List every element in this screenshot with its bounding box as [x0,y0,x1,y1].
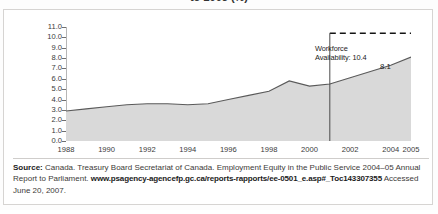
y-axis-tick-label: 6.0 [51,75,62,83]
y-axis-tick-label: 3.0 [51,106,62,114]
x-axis-tick-label: 1990 [98,145,115,154]
x-axis-tick-label: 2004 [382,145,399,154]
y-axis-tick [62,100,66,101]
y-axis-tick [62,131,66,132]
y-axis-tick [62,110,66,111]
y-axis-labels: 11.010.09.08.07.06.05.04.03.02.01.00.0 [26,27,62,141]
x-axis-tick-label: 2002 [342,145,359,154]
x-axis-tick-label: 1988 [58,145,75,154]
x-axis-tick-label: 1998 [260,145,277,154]
x-axis-tick-label: 2005 [403,145,420,154]
y-axis-tick [62,141,66,142]
figure-page: to 2005 (%) 11.010.09.08.07.06.05.04.03.… [0,0,438,214]
chart-plot-wrapper: 11.010.09.08.07.06.05.04.03.02.01.00.0 1… [4,15,434,155]
x-axis-labels: 1988199019921994199619982000200220042005 [66,145,418,159]
y-axis-tick [62,68,66,69]
y-axis-tick [62,89,66,90]
y-axis-tick-label: 10.0 [47,33,62,41]
y-axis-tick-label: 8.0 [51,54,62,62]
y-axis-tick-label: 11.0 [48,23,62,31]
y-axis-tick-label: 9.0 [51,44,62,52]
y-axis-tick [62,120,66,121]
y-axis-tick [62,37,66,38]
y-axis-tick [62,58,66,59]
source-url[interactable]: www.psagency-agencefp.gc.ca/reports-rapp… [91,174,382,183]
y-axis-tick [62,79,66,80]
figure-box: 11.010.09.08.07.06.05.04.03.02.01.00.0 1… [3,9,433,205]
source-note: Source: Canada. Treasury Board Secretari… [13,162,429,196]
x-axis-tick-label: 1992 [139,145,156,154]
y-axis-tick-label: 7.0 [51,64,62,72]
y-axis-tick [62,48,66,49]
chart-title-cutoff: to 2005 (%) [0,0,438,5]
annotation-line-2: Availability: 10.4 [315,54,411,63]
y-axis-tick-label: 2.0 [51,116,62,124]
workforce-availability-annotation: Workforce Availability: 10.4 [315,45,411,62]
source-label: Source: [13,163,43,172]
x-axis-tick-label: 1994 [179,145,196,154]
y-axis-tick-label: 4.0 [51,96,62,104]
x-axis-tick-label: 1996 [220,145,237,154]
y-axis-tick-label: 1.0 [51,127,62,135]
endpoint-value-label: 8.1 [380,62,391,71]
series-area [66,57,411,141]
y-axis-tick-label: 5.0 [51,85,62,93]
x-axis-tick-label: 2000 [301,145,318,154]
page-bottom-edge [0,210,438,214]
y-axis-tick [62,27,66,28]
y-axis-tick-label: 0.0 [51,137,62,145]
source-divider [13,158,429,159]
